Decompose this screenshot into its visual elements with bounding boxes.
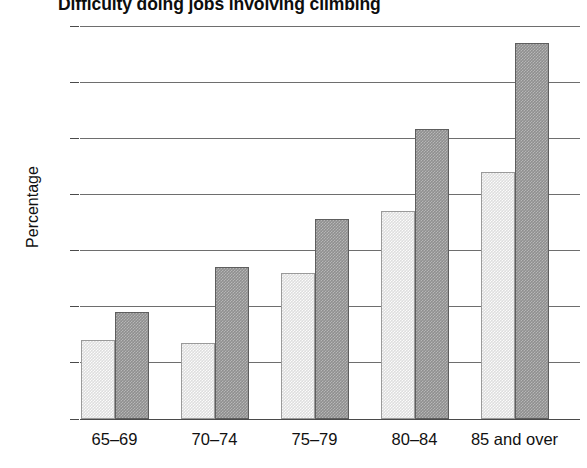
bar <box>381 211 415 419</box>
bar <box>515 43 549 419</box>
y-axis-tick-mark <box>70 138 79 139</box>
y-axis-tick-mark <box>70 306 79 307</box>
x-axis-tick-label: 65–69 <box>92 430 138 448</box>
bar <box>181 343 215 419</box>
gridline <box>80 138 580 139</box>
bar <box>215 267 249 419</box>
gridline <box>80 82 580 83</box>
bar <box>281 273 315 419</box>
plot-area: 010203040506070 <box>80 26 580 419</box>
y-axis-tick-mark <box>70 194 79 195</box>
x-axis-tick-label: 70–74 <box>192 430 238 448</box>
y-axis-tick-mark <box>70 82 79 83</box>
chart-title: Difficulty doing jobs involving climbing <box>58 0 381 14</box>
y-axis-title: Percentage <box>24 147 42 267</box>
y-axis-tick-mark <box>70 362 79 363</box>
bar <box>481 172 515 419</box>
bar <box>315 219 349 419</box>
y-axis-tick-mark <box>70 419 79 420</box>
gridline <box>80 26 580 27</box>
bar <box>115 312 149 419</box>
bar-chart: Difficulty doing jobs involving climbing… <box>0 0 587 468</box>
x-axis-tick-label: 85 and over <box>471 430 558 448</box>
y-axis-tick-mark <box>70 26 79 27</box>
x-axis-tick-label: 80–84 <box>392 430 438 448</box>
y-axis-tick-mark <box>70 250 79 251</box>
bar <box>81 340 115 419</box>
bar <box>415 129 449 419</box>
x-axis-tick-label: 75–79 <box>292 430 338 448</box>
